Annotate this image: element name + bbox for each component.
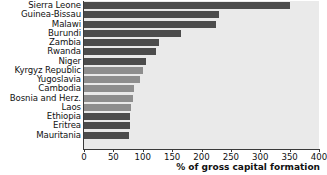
bar-track [84, 21, 216, 28]
x-tick-label: 350 [281, 152, 297, 162]
bar-guinea-bissau [84, 11, 219, 18]
bar-row: Mauritania [0, 131, 324, 140]
bar-track [84, 48, 156, 55]
bar-track [84, 39, 159, 46]
bar-row: Bosnia and Herz. [0, 94, 324, 103]
bar-row: Rwanda [0, 47, 324, 56]
bar-laos [84, 104, 131, 111]
x-tick-label: 50 [108, 152, 119, 162]
bar-malawi [84, 21, 216, 28]
bar-row: Ethiopia [0, 112, 324, 121]
bar-yugoslavia [84, 76, 140, 83]
bar-burundi [84, 30, 181, 37]
bar-track [84, 58, 146, 65]
bar-track [84, 76, 140, 83]
bar-track [84, 85, 134, 92]
bar-track [84, 122, 130, 129]
bar-ethiopia [84, 113, 130, 120]
x-tick-label: 150 [164, 152, 180, 162]
x-tick-label: 100 [135, 152, 151, 162]
bar-cambodia [84, 85, 134, 92]
category-label-mauritania: Mauritania [1, 131, 81, 140]
x-tick-label: 300 [252, 152, 268, 162]
bar-track [84, 30, 181, 37]
bar-track [84, 95, 133, 102]
bar-track [84, 104, 131, 111]
bar-rwanda [84, 48, 156, 55]
bar-niger [84, 58, 146, 65]
bar-rows: Sierra LeoneGuinea-BissauMalawiBurundiZa… [0, 1, 324, 149]
x-tick-label: 250 [223, 152, 239, 162]
bar-track [84, 132, 129, 139]
x-tick-label: 200 [193, 152, 209, 162]
bar-kyrgyz-republic [84, 67, 143, 74]
bar-track [84, 11, 219, 18]
bar-track [84, 113, 130, 120]
bar-eritrea [84, 122, 130, 129]
bar-sierra-leone [84, 2, 290, 9]
x-tick-label: 0 [81, 152, 86, 162]
bar-mauritania [84, 132, 129, 139]
x-tick-label: 400 [311, 152, 327, 162]
x-axis-title: % of gross capital formation [0, 162, 320, 172]
bar-row: Guinea-Bissau [0, 10, 324, 19]
bar-track [84, 2, 290, 9]
y-axis-line [83, 1, 84, 149]
bar-zambia [84, 39, 159, 46]
bar-track [84, 67, 143, 74]
bar-bosnia-and-herz [84, 95, 133, 102]
